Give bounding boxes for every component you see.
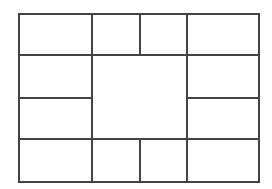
cell-bottom-4 xyxy=(186,138,260,183)
cell-top-3 xyxy=(139,13,188,56)
cell-bottom-2 xyxy=(91,138,141,183)
cell-bottom-3 xyxy=(139,138,188,183)
cell-bottom-1 xyxy=(18,138,93,183)
cell-top-2 xyxy=(91,13,141,56)
cell-right-upper xyxy=(186,54,260,99)
cell-top-4 xyxy=(186,13,260,56)
cell-center xyxy=(91,54,188,140)
cell-left-lower xyxy=(18,97,93,140)
cell-left-upper xyxy=(18,54,93,99)
grid-diagram xyxy=(0,0,272,189)
cell-top-1 xyxy=(18,13,93,56)
cell-right-lower xyxy=(186,97,260,140)
